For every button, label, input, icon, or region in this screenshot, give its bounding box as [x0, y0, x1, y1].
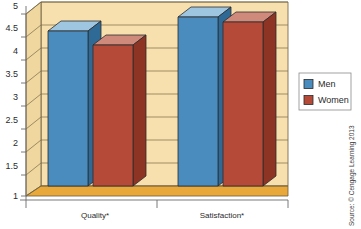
bar-quality-women [93, 35, 146, 186]
bar-front-face [178, 17, 218, 186]
bar-satisfaction-women [223, 12, 276, 186]
y-tick-label: 3.5 [5, 69, 18, 79]
legend-swatch-men [304, 80, 313, 89]
plot-area: 5 4.5 4 3.5 3 2.5 2 1.5 1 [5, 1, 288, 221]
bar-side-face [263, 12, 276, 186]
legend: Men Women [299, 73, 351, 110]
y-tick-label: 4.5 [5, 23, 18, 33]
y-tick-label: 3 [13, 92, 18, 102]
x-axis-ticks [26, 200, 288, 208]
category-label: Quality* [81, 211, 109, 220]
legend-label-women: Women [318, 95, 349, 105]
source-credit: Source: © Cengage Learning 2013 [348, 125, 356, 226]
bar-front-face [93, 45, 133, 186]
plot-floor [26, 186, 288, 196]
y-tick-label: 5 [13, 1, 18, 11]
chart-canvas: 5 4.5 4 3.5 3 2.5 2 1.5 1 [0, 0, 361, 229]
y-tick-label: 1 [13, 191, 18, 201]
y-tick-label: 2.5 [5, 115, 18, 125]
y-tick-label: 4 [13, 46, 18, 56]
category-label: Satisfaction* [200, 211, 244, 220]
y-axis-ticks [21, 14, 26, 196]
x-axis-category-labels: Quality* Satisfaction* [81, 211, 244, 220]
bar-front-face [48, 31, 88, 186]
bar-side-face [133, 35, 146, 186]
y-tick-label: 1.5 [5, 161, 18, 171]
legend-swatch-women [304, 96, 313, 105]
bar-chart: 5 4.5 4 3.5 3 2.5 2 1.5 1 [0, 0, 361, 229]
bar-front-face [223, 22, 263, 186]
y-tick-label: 2 [13, 138, 18, 148]
y-axis-tick-labels: 5 4.5 4 3.5 3 2.5 2 1.5 1 [5, 1, 18, 202]
legend-label-men: Men [318, 79, 336, 89]
